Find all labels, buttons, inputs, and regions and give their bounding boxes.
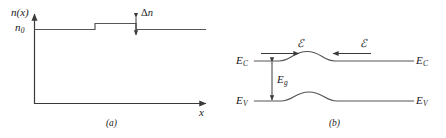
conduction-band-symbol-left: E xyxy=(236,54,243,66)
concentration-profile-curve xyxy=(35,24,207,30)
delta-n-variable: n xyxy=(148,7,153,18)
baseline-value-label: n0 xyxy=(15,22,24,35)
panel-b-caption: (b) xyxy=(223,119,446,129)
conduction-band-curve xyxy=(254,52,414,62)
field-label-left: ℰ xyxy=(297,38,304,49)
y-axis-label: n(x) xyxy=(11,7,29,18)
panel-b: EC EC EV EV Eg ℰ ℰ (b) xyxy=(223,0,446,138)
conduction-band-label-left: EC xyxy=(236,55,248,68)
conduction-band-symbol-right: E xyxy=(416,54,423,66)
conduction-band-label-right: EC xyxy=(416,55,428,68)
panel-a-caption: (a) xyxy=(0,119,223,129)
valence-band-symbol-left: E xyxy=(236,94,243,106)
bandgap-subscript: g xyxy=(284,78,288,87)
conduction-band-subscript-right: C xyxy=(423,59,428,68)
valence-band-label-left: EV xyxy=(236,95,247,108)
baseline-value-symbol: n xyxy=(15,21,21,33)
delta-symbol: Δ xyxy=(141,7,148,18)
valence-band-subscript-right: V xyxy=(423,99,428,108)
conduction-band-subscript-left: C xyxy=(243,59,248,68)
valence-band-subscript-left: V xyxy=(243,99,248,108)
valence-band-curve xyxy=(254,92,414,101)
bandgap-label: Eg xyxy=(277,74,288,87)
x-axis-label: x xyxy=(199,107,204,118)
valence-band-symbol-right: E xyxy=(416,94,423,106)
panel-a: n(x) n0 Δn x (a) xyxy=(0,0,223,138)
bandgap-symbol: E xyxy=(277,73,284,85)
valence-band-label-right: EV xyxy=(416,95,427,108)
field-label-right: ℰ xyxy=(360,38,367,49)
figure-container: n(x) n0 Δn x (a) xyxy=(0,0,446,138)
baseline-value-subscript: 0 xyxy=(21,26,25,35)
delta-n-label: Δn xyxy=(141,8,153,19)
